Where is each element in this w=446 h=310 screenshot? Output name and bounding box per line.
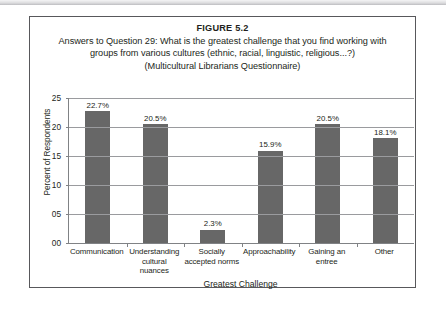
y-axis-tick-label: 05 [52, 209, 61, 219]
y-axis-tick-mark [66, 156, 69, 157]
x-axis-category-label: Gaining an entree [298, 247, 356, 276]
x-axis-category-labels: CommunicationUnderstanding cultural nuan… [68, 247, 413, 276]
bar-value-label: 15.9% [259, 140, 281, 149]
gridline [69, 185, 414, 186]
bar[interactable]: 20.5% [143, 124, 168, 243]
y-axis-tick-mark [66, 127, 69, 128]
y-axis-tick-mark [66, 185, 69, 186]
y-axis-tick-label: 25 [52, 93, 61, 103]
figure-caption-line-2: groups from various cultures (ethnic, ra… [39, 47, 406, 60]
x-axis-category-label: Socially accepted norms [183, 247, 241, 276]
bar-value-label: 18.1% [374, 128, 396, 137]
figure-panel: FIGURE 5.2 Answers to Question 29: What … [29, 16, 416, 288]
bar[interactable]: 2.3% [200, 230, 225, 243]
x-axis-category-label: Understanding cultural nuances [126, 247, 184, 276]
figure-number: FIGURE 5.2 [39, 22, 406, 35]
window-top-band [0, 0, 446, 5]
y-axis-tick-mark [66, 243, 69, 244]
y-axis-tick-mark [66, 214, 69, 215]
gridline [69, 98, 414, 99]
bar[interactable]: 15.9% [258, 151, 283, 243]
bar-value-label: 20.5% [144, 114, 166, 123]
bar-chart: Percent of Respondents 000510152025 22.7… [30, 73, 415, 287]
bar-slot: 2.3% [184, 98, 242, 243]
x-axis-category-label: Communication [68, 247, 126, 276]
bar-series: 22.7%20.5%2.3%15.9%20.5%18.1% [69, 98, 414, 243]
gridline [69, 127, 414, 128]
bar[interactable]: 18.1% [373, 138, 398, 243]
x-axis-category-label: Other [356, 247, 414, 276]
x-axis-title: Greatest Challenge [68, 279, 413, 289]
y-axis-tick-label: 20 [52, 122, 61, 132]
plot-area: 22.7%20.5%2.3%15.9%20.5%18.1% [68, 98, 414, 244]
gridline [69, 214, 414, 215]
bar-slot: 18.1% [357, 98, 415, 243]
figure-caption-line-1: Answers to Question 29: What is the grea… [39, 35, 406, 48]
bar-slot: 20.5% [127, 98, 185, 243]
bar-slot: 20.5% [299, 98, 357, 243]
x-axis-category-label: Approachability [241, 247, 299, 276]
y-axis-tick-label: 10 [52, 180, 61, 190]
bar-value-label: 20.5% [317, 114, 339, 123]
y-axis-tick-label: 00 [52, 238, 61, 248]
y-axis-tick-labels: 000510152025 [41, 98, 61, 243]
gridline [69, 156, 414, 157]
bar-slot: 15.9% [242, 98, 300, 243]
bar-value-label: 22.7% [87, 101, 109, 110]
bar[interactable]: 20.5% [315, 124, 340, 243]
bar[interactable]: 22.7% [85, 111, 110, 243]
bar-slot: 22.7% [69, 98, 127, 243]
y-axis-tick-label: 15 [52, 151, 61, 161]
bar-value-label: 2.3% [204, 219, 222, 228]
figure-title-block: FIGURE 5.2 Answers to Question 29: What … [30, 17, 415, 72]
figure-caption-line-3: (Multicultural Librarians Questionnaire) [39, 60, 406, 73]
y-axis-tick-mark [66, 98, 69, 99]
